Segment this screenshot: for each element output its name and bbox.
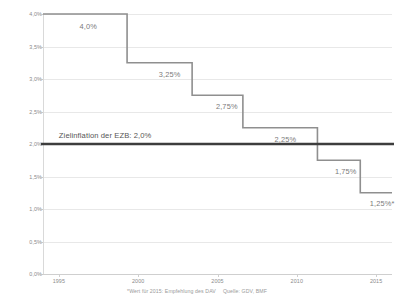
data-label-3.25: 3,25% (159, 70, 181, 79)
ecb-target-annotation: Zielinflation der EZB: 2,0% (59, 131, 152, 140)
data-label-4: 4,0% (79, 22, 96, 31)
footnote-note: *Wert für 2015: Empfehlung des DAV (127, 288, 216, 294)
footnote-source: Quelle: GDV, BMF (223, 288, 267, 294)
data-label-1.75: 1,75% (335, 167, 357, 176)
chart-footnote: *Wert für 2015: Empfehlung des DAVQuelle… (0, 288, 394, 294)
data-label-2.25: 2,25% (275, 135, 297, 144)
data-label-1.25: 1,25%* (370, 199, 395, 208)
data-label-2.75: 2,75% (216, 102, 238, 111)
